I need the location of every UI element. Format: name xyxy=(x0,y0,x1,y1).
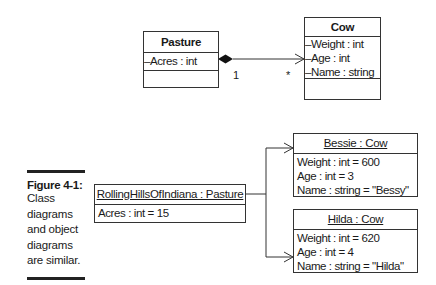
cow-operations xyxy=(305,78,380,100)
cow-class-name: Cow xyxy=(305,18,380,36)
bessie-object-name: Bessie : Cow xyxy=(294,134,417,153)
rollinghills-object-name: RollingHillsOfIndiana : Pasture xyxy=(95,185,245,204)
cow-attribute-weight: –Weight : int xyxy=(305,37,380,51)
bessie-attribute-weight: Weight : int = 600 xyxy=(294,155,417,169)
pasture-class-name: Pasture xyxy=(144,32,218,52)
rollinghills-attribute-acres: Acres : int = 15 xyxy=(95,205,245,222)
figure-caption: Figure 4-1: Class diagrams and object di… xyxy=(27,170,85,280)
caption-line: diagrams xyxy=(27,238,85,254)
caption-bottom-rule xyxy=(27,277,85,280)
hilda-attributes: Weight : int = 620 Age : int = 4 Name : … xyxy=(294,229,417,273)
bessie-attribute-name: Name : string = "Bessy" xyxy=(294,183,417,197)
multiplicity-many: * xyxy=(286,69,290,81)
bessie-attributes: Weight : int = 600 Age : int = 3 Name : … xyxy=(294,153,417,197)
hilda-attribute-age: Age : int = 4 xyxy=(294,245,417,259)
composition-diamond-icon xyxy=(218,55,233,64)
bessie-attribute-age: Age : int = 3 xyxy=(294,169,417,183)
rollinghills-attributes: Acres : int = 15 xyxy=(95,204,245,222)
cow-attributes: –Weight : int –Age : int –Name : string xyxy=(305,36,380,78)
caption-title: Figure 4-1: xyxy=(27,179,85,191)
pasture-attribute-acres: –Acres : int xyxy=(144,53,218,70)
pasture-class: Pasture –Acres : int xyxy=(143,31,219,88)
caption-top-rule xyxy=(27,170,85,173)
pasture-operations xyxy=(144,70,218,87)
hilda-object-name: Hilda : Cow xyxy=(294,210,417,229)
hilda-object: Hilda : Cow Weight : int = 620 Age : int… xyxy=(293,209,418,273)
rollinghills-object: RollingHillsOfIndiana : Pasture Acres : … xyxy=(94,184,246,223)
hilda-attribute-name: Name : string = "Hilda" xyxy=(294,259,417,273)
cow-attribute-name: –Name : string xyxy=(305,65,380,79)
multiplicity-one: 1 xyxy=(233,69,239,81)
hilda-attribute-weight: Weight : int = 620 xyxy=(294,231,417,245)
caption-line: and object xyxy=(27,222,85,238)
cow-class: Cow –Weight : int –Age : int –Name : str… xyxy=(304,17,381,100)
caption-line: diagrams xyxy=(27,207,85,223)
pasture-attributes: –Acres : int xyxy=(144,52,218,70)
bessie-object: Bessie : Cow Weight : int = 600 Age : in… xyxy=(293,133,418,197)
cow-attribute-age: –Age : int xyxy=(305,51,380,65)
caption-line: Class xyxy=(27,191,85,207)
caption-line: are similar. xyxy=(27,253,85,269)
